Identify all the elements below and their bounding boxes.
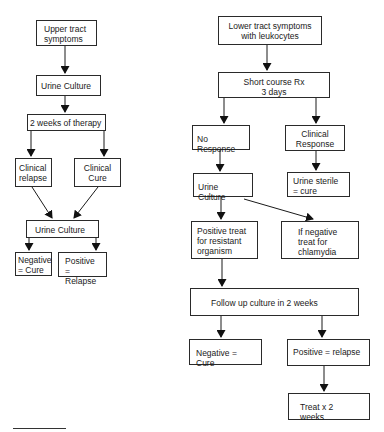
clinical-response-node: Clinical Response — [285, 125, 345, 151]
short-course-rx-node: Short course Rx 3 days — [218, 72, 330, 98]
upper-tract-symptoms-node: Upper tract symptoms — [36, 20, 97, 46]
negative-cure-node-left: Negative = Cure — [15, 252, 52, 276]
footnote-divider — [13, 428, 66, 429]
connector-arrows — [0, 0, 384, 432]
positive-treat-resistant-node: Positive treat for resistant organism — [191, 221, 258, 259]
urine-culture-node-left-1: Urine Culture — [36, 75, 101, 96]
no-response-node: No Response — [192, 125, 250, 150]
urine-culture-node-left-2: Urine Culture — [26, 220, 99, 238]
positive-relapse-node-left: Positive = Relapse — [58, 252, 107, 277]
urine-culture-node-right: Urine Culture — [193, 173, 253, 197]
two-weeks-therapy-node: 2 weeks of therapy — [27, 114, 106, 131]
negative-cure-node-right: Negative = Cure — [189, 339, 262, 365]
negative-treat-chlamydia-node: If negative treat for chlamydia — [281, 221, 359, 259]
clinical-relapse-node: Clinical relapse — [15, 158, 52, 187]
positive-relapse-node-right: Positive = relapse — [287, 339, 370, 366]
treat-two-weeks-node: Treat x 2 weeks — [288, 393, 370, 420]
urine-sterile-cure-node: Urine sterile = cure — [287, 172, 350, 197]
clinical-cure-node: Clinical Cure — [74, 158, 121, 187]
flowchart-canvas: Upper tract symptoms Urine Culture 2 wee… — [0, 0, 384, 432]
lower-tract-symptoms-node: Lower tract symptoms with leukocytes — [218, 16, 322, 45]
follow-up-culture-node: Follow up culture in 2 weeks — [190, 288, 359, 316]
